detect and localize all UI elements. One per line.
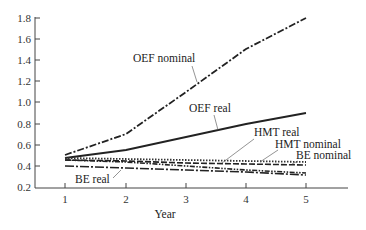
- label-be-real: BE real: [75, 173, 110, 185]
- x-tick: 1: [62, 193, 68, 205]
- y-tick: 1.8: [17, 12, 31, 24]
- y-tick: 0.8: [17, 118, 31, 130]
- label-hmt-real: HMT real: [254, 126, 299, 138]
- y-tick: 0.2: [17, 181, 31, 193]
- label-be-nominal: BE nominal: [296, 149, 351, 161]
- y-axis: [35, 17, 40, 188]
- y-tick-labels: 0.2 0.4 0.6 0.8 1.0 1.2 1.4 1.6 1.8: [17, 12, 31, 193]
- y-tick: 0.6: [17, 139, 31, 151]
- x-tick: 2: [123, 193, 129, 205]
- x-tick: 5: [303, 193, 309, 205]
- y-tick: 1.4: [17, 54, 31, 66]
- x-axis-title: Year: [154, 208, 175, 220]
- x-tick-labels: 1 2 3 4 5: [62, 193, 309, 205]
- y-tick: 1.2: [17, 75, 31, 87]
- line-chart: 0.2 0.4 0.6 0.8 1.0 1.2 1.4 1.6 1.8 1 2 …: [0, 0, 366, 230]
- y-tick: 1.6: [17, 33, 31, 45]
- label-oef-nominal: OEF nominal: [133, 52, 195, 64]
- label-oef-real: OEF real: [189, 102, 231, 114]
- y-tick: 0.4: [17, 160, 31, 172]
- x-tick: 4: [243, 193, 249, 205]
- x-tick: 3: [183, 193, 189, 205]
- y-tick: 1.0: [17, 96, 31, 108]
